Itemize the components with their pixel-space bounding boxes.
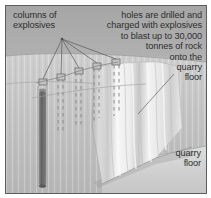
- illustration-frame: columns of explosives holes are drilled …: [5, 5, 207, 194]
- sky-band: [6, 6, 206, 56]
- illustration-page: columns of explosives holes are drilled …: [0, 0, 211, 198]
- quarry-blasting-diagram: [6, 6, 206, 193]
- explosive-column: [39, 88, 46, 187]
- leader-fan-apex: [61, 38, 64, 41]
